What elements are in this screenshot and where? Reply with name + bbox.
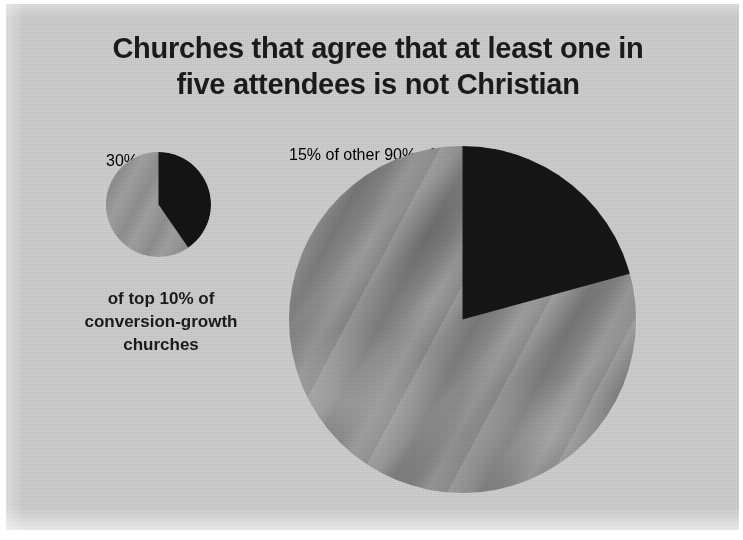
small-pie-caption-line-3: churches [44,333,278,356]
page-title-line-2: five attendees is not Christian [42,66,714,102]
small-pie-caption: of top 10% of conversion-growth churches [44,287,278,356]
large-pie-circle [289,146,636,493]
page-title-line-1: Churches that agree that at least one in [42,30,714,66]
small-pie-circle [106,152,211,257]
small-pie-caption-line-1: of top 10% of [44,287,278,310]
small-pie-caption-line-2: conversion-growth [44,310,278,333]
large-pie-chart: 15% of other 90% of churches [289,146,636,493]
small-pie-chart: 30% [106,152,211,257]
slide-page: Churches that agree that at least one in… [0,0,743,540]
page-title: Churches that agree that at least one in… [42,30,714,102]
scanned-page-background: Churches that agree that at least one in… [6,4,739,530]
